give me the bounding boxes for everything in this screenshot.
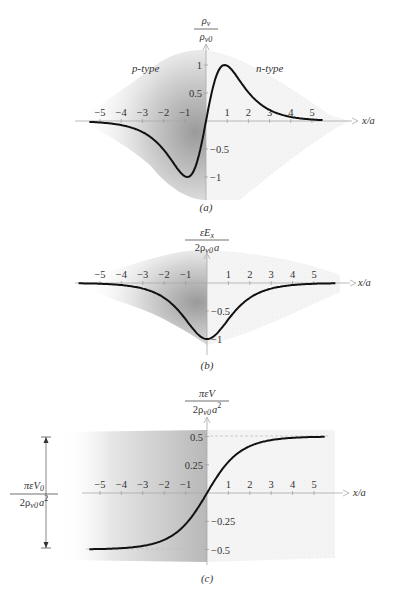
y-tick-label: 0.5 xyxy=(189,88,202,99)
p-region-shading xyxy=(80,250,207,345)
x-tick-label: 5 xyxy=(311,479,316,490)
panel-c: −5−4−3−2−1123450.50.25−0.25−0.5 πεV 2ρv0… xyxy=(10,388,366,585)
svg-text:2ρv0a2: 2ρv0a2 xyxy=(20,494,48,510)
x-tick-label: −1 xyxy=(179,107,190,118)
x-tick-label: −5 xyxy=(94,269,105,280)
x-tick-label: 5 xyxy=(311,269,316,280)
x-axis-label: x/a xyxy=(357,277,371,288)
x-tick-label: −3 xyxy=(137,269,148,280)
panel-a: −5−4−3−2−11234510.5−0.5−1 ρv ρv0 x/a p-t… xyxy=(75,15,375,214)
svg-text:πεV0: πεV0 xyxy=(24,480,44,493)
figure-canvas: −5−4−3−2−11234510.5−0.5−1 ρv ρv0 x/a p-t… xyxy=(0,0,395,599)
x-tick-label: 2 xyxy=(246,107,251,118)
n-region-shading xyxy=(207,250,340,345)
v0-bracket-label: πεV0 2ρv0a2 xyxy=(10,480,58,510)
x-tick-label: 2 xyxy=(247,479,252,490)
x-tick-label: −4 xyxy=(116,479,128,490)
y-tick-label: −0.5 xyxy=(210,144,229,155)
x-tick-label: 3 xyxy=(269,479,274,490)
caption-c: (c) xyxy=(201,572,214,585)
x-tick-label: −4 xyxy=(116,269,128,280)
p-region-shading xyxy=(60,430,207,562)
x-tick-label: −2 xyxy=(159,479,170,490)
x-tick-label: −5 xyxy=(94,107,105,118)
x-tick-label: 1 xyxy=(226,269,231,280)
y-tick-label: 1 xyxy=(197,60,202,71)
svg-text:ρv0: ρv0 xyxy=(199,31,213,44)
caption-b: (b) xyxy=(201,359,214,372)
y-tick-label: −0.5 xyxy=(211,545,230,556)
caption-a: (a) xyxy=(200,201,213,214)
y-tick-label: −0.25 xyxy=(211,516,235,527)
n-region-shading xyxy=(207,430,335,562)
x-tick-label: 4 xyxy=(290,269,296,280)
x-tick-label: −1 xyxy=(180,269,191,280)
x-tick-label: −2 xyxy=(159,269,170,280)
svg-text:πεV: πεV xyxy=(199,388,216,399)
y-tick-label: 0.5 xyxy=(190,432,203,443)
svg-text:εEx: εEx xyxy=(200,227,215,240)
x-tick-label: 1 xyxy=(226,479,231,490)
p-type-label: p-type xyxy=(131,62,160,74)
x-tick-label: −5 xyxy=(94,479,105,490)
y-tick-label: 0.25 xyxy=(185,460,203,471)
y-axis-label: πεV 2ρv0a2 xyxy=(185,388,229,417)
x-tick-label: 4 xyxy=(290,479,296,490)
svg-text:2ρv0a2: 2ρv0a2 xyxy=(193,401,221,417)
x-tick-label: 5 xyxy=(309,107,314,118)
x-tick-label: −4 xyxy=(116,107,128,118)
svg-text:ρv: ρv xyxy=(201,15,211,28)
x-tick-label: −1 xyxy=(180,479,191,490)
x-tick-label: −3 xyxy=(137,107,148,118)
x-axis-label: x/a xyxy=(352,487,366,498)
x-tick-label: −3 xyxy=(137,479,148,490)
panel-b: −5−4−3−2−112345−0.5−1 εEx 2ρv0a x/a (b) xyxy=(75,227,371,372)
x-tick-label: 1 xyxy=(225,107,230,118)
x-tick-label: 2 xyxy=(247,269,252,280)
x-axis-label: x/a xyxy=(361,115,375,126)
n-type-label: n-type xyxy=(256,62,284,74)
x-tick-label: 3 xyxy=(269,269,274,280)
y-tick-label: −1 xyxy=(211,334,222,345)
x-tick-label: −2 xyxy=(158,107,169,118)
y-tick-label: −1 xyxy=(210,172,221,183)
y-tick-label: −0.5 xyxy=(211,306,230,317)
y-axis-label: ρv ρv0 xyxy=(194,15,218,44)
